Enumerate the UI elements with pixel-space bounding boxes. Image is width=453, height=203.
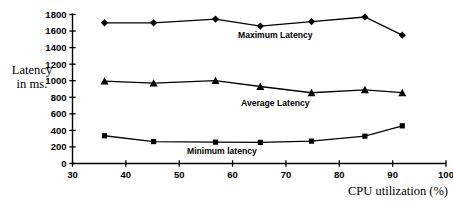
x-axis-tick-label: 70 (281, 169, 292, 180)
x-axis-tick-label: 40 (121, 169, 132, 180)
series-annotation-maximum-latency: Maximum Latency (238, 30, 313, 40)
x-axis-tick-label: 80 (334, 169, 345, 180)
y-axis-tick-label: 600 (51, 108, 67, 119)
x-axis-tick-label: 50 (174, 169, 185, 180)
y-axis-tick-label: 1600 (45, 25, 66, 36)
data-point-diamond-icon (399, 32, 406, 39)
y-axis-tick-label: 1400 (45, 42, 66, 53)
series-line-minimum-latency (105, 126, 403, 143)
data-point-square-icon (151, 139, 156, 144)
series-annotation-average-latency: Average Latency (241, 98, 310, 108)
y-axis-tick-label: 1800 (45, 9, 66, 20)
y-axis-tick-label: 1000 (45, 75, 66, 86)
y-axis-tick-label: 0 (61, 158, 66, 169)
y-axis-tick-label: 400 (51, 125, 67, 136)
y-axis-tick-label: 200 (51, 141, 67, 152)
data-point-square-icon (309, 139, 314, 144)
data-point-diamond-icon (150, 19, 157, 26)
x-axis-tick-label: 30 (67, 169, 78, 180)
data-point-diamond-icon (212, 15, 219, 22)
data-point-square-icon (400, 123, 405, 128)
series-annotation-minimum-latency: Minimum latency (187, 146, 257, 156)
y-axis-tick-label: 800 (51, 92, 67, 103)
x-axis-tick-label: 90 (387, 169, 398, 180)
data-point-diamond-icon (361, 13, 368, 20)
series-line-average-latency (105, 81, 403, 93)
data-point-diamond-icon (101, 19, 108, 26)
data-point-square-icon (102, 133, 107, 138)
data-point-diamond-icon (257, 22, 264, 29)
x-axis-tick-label: 100 (438, 169, 453, 180)
x-axis: 30405060708090100 (67, 160, 453, 179)
x-axis-tick-label: 60 (227, 169, 238, 180)
latency-vs-cpu-utilization-chart: Latency in ms. 0200400600800100012001400… (0, 0, 453, 203)
data-series-group: Maximum LatencyAverage LatencyMinimum la… (101, 13, 407, 155)
y-axis: 020040060080010001200140016001800 (45, 9, 75, 169)
chart-canvas: 020040060080010001200140016001800 304050… (0, 0, 453, 203)
data-point-square-icon (213, 140, 218, 145)
x-axis-title: CPU utilization (%) (348, 184, 448, 198)
data-point-square-icon (258, 140, 263, 145)
y-axis-tick-label: 1200 (45, 59, 66, 70)
data-point-square-icon (362, 134, 367, 139)
data-point-diamond-icon (308, 18, 315, 25)
